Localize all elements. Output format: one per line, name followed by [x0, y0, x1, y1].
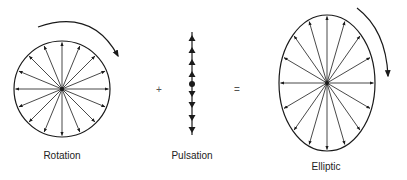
- pulsation-label: Pulsation: [171, 150, 212, 161]
- down-arrowhead: [189, 115, 196, 121]
- down-arrowhead: [189, 127, 196, 133]
- spoke-arrow: [327, 36, 360, 83]
- rotation-center-dot: [60, 87, 64, 91]
- spoke-arrow: [62, 56, 95, 89]
- up-arrowhead: [189, 59, 196, 65]
- spoke-arrow: [62, 89, 95, 122]
- rotation-pulsation-elliptic-diagram: Rotation + Pulsation = Elliptic: [0, 0, 407, 180]
- down-arrowhead: [189, 102, 196, 108]
- pulsation-panel: Pulsation: [171, 32, 212, 161]
- elliptic-panel: Elliptic: [279, 8, 388, 172]
- equals-operator: =: [234, 84, 240, 95]
- spoke-arrow: [294, 83, 327, 130]
- pulsation-center-dot: [189, 81, 195, 87]
- spoke-arrow: [327, 83, 360, 130]
- elliptic-center-dot: [325, 81, 329, 85]
- spoke-arrow: [294, 36, 327, 83]
- up-arrowhead: [189, 47, 196, 53]
- elliptic-label: Elliptic: [312, 161, 341, 172]
- spoke-arrow: [29, 89, 62, 122]
- up-arrowhead: [189, 71, 196, 77]
- elliptic-direction-arrow: [357, 8, 388, 76]
- spoke-arrow: [29, 56, 62, 89]
- plus-operator: +: [156, 84, 162, 95]
- down-arrowhead: [189, 91, 196, 97]
- rotation-panel: Rotation: [14, 22, 118, 161]
- up-arrowhead: [189, 35, 196, 41]
- rotation-label: Rotation: [43, 150, 80, 161]
